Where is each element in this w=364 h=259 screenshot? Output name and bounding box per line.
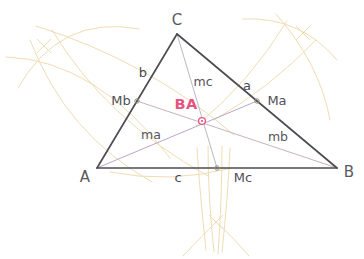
arc-bottom-right-1 bbox=[222, 148, 230, 252]
arc-node-left bbox=[37, 39, 51, 53]
arc-node-right bbox=[296, 26, 310, 40]
vertex-label-A: A bbox=[80, 170, 90, 185]
median-label-mc: mc bbox=[193, 76, 212, 89]
median-line-group bbox=[97, 34, 337, 168]
arc-intersection-group bbox=[37, 26, 310, 229]
median-mb bbox=[137, 101, 337, 168]
side-label-a: a bbox=[243, 79, 251, 92]
arc-right-upper bbox=[243, 19, 337, 60]
vertex-label-B: B bbox=[344, 165, 355, 180]
triangle-outline bbox=[97, 34, 337, 168]
midpoint-label-Mb: Mb bbox=[111, 94, 130, 107]
vertex-label-C: C bbox=[172, 13, 183, 28]
midpoint-label-Ma: Ma bbox=[267, 94, 286, 107]
midpoint-label-Mc: Mc bbox=[234, 171, 252, 184]
geometry-canvas bbox=[0, 0, 364, 259]
centroid-label: BA bbox=[175, 97, 198, 112]
geometry-figure: ABCMaMbMcabcmambmcBA bbox=[0, 0, 364, 259]
side-label-b: b bbox=[139, 66, 147, 79]
centroid-marker bbox=[199, 118, 206, 125]
arc-mid-low-band bbox=[110, 168, 232, 177]
side-a bbox=[177, 34, 337, 168]
arc-bottom-left-1 bbox=[197, 148, 206, 250]
side-label-c: c bbox=[174, 171, 181, 184]
arc-ac-sweep-2 bbox=[30, 40, 152, 182]
arc-bottom-right-2 bbox=[218, 146, 222, 254]
centroid-point-core bbox=[201, 120, 203, 122]
median-label-ma: ma bbox=[141, 129, 161, 142]
arc-bottom-left-2 bbox=[208, 146, 214, 252]
arc-ab-upper-left bbox=[18, 26, 139, 88]
median-label-mb: mb bbox=[268, 131, 288, 144]
